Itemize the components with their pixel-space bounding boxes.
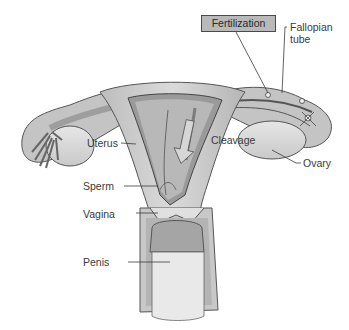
- egg-point: [300, 99, 305, 104]
- vagina-label: Vagina: [83, 208, 115, 220]
- cleavage-label: Cleavage: [211, 134, 255, 146]
- penis: [150, 221, 204, 321]
- uterus: [100, 82, 245, 215]
- fallopian-tube-label-line1: Fallopian: [290, 21, 333, 33]
- fertilization-label-box: Fertilization: [201, 15, 276, 32]
- anatomy-illustration: [0, 0, 349, 330]
- sperm-label: Sperm: [83, 180, 114, 192]
- uterus-label: Uterus: [87, 137, 118, 149]
- penis-label: Penis: [83, 256, 109, 268]
- ovary-label: Ovary: [303, 157, 331, 169]
- reproductive-anatomy-diagram: Fertilization Fallopian tube Uterus Clea…: [0, 0, 349, 330]
- egg-fertilization-point: [266, 93, 271, 98]
- fallopian-tube-label-line2: tube: [290, 33, 310, 45]
